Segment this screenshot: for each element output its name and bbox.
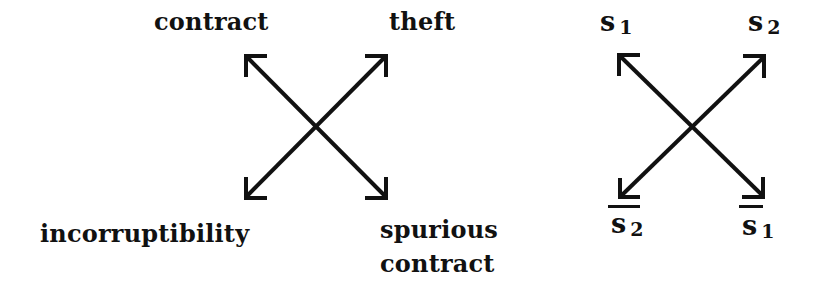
- right-cross-arrows: [619, 55, 764, 197]
- left-cross-arrows: [246, 56, 386, 198]
- arrows-layer: [0, 0, 817, 293]
